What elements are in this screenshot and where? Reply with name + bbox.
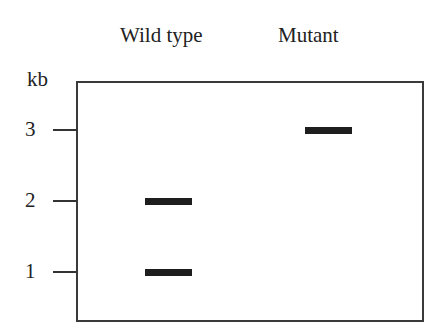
tick-mark-1kb: [53, 271, 77, 273]
tick-label-3kb: 3: [25, 117, 41, 141]
tick-mark-3kb: [53, 129, 77, 131]
tick-label-1kb: 1: [25, 259, 41, 283]
gel-frame: [76, 81, 424, 322]
tick-mark-2kb: [53, 200, 77, 202]
band-mutant-3kb: [305, 127, 352, 134]
band-wild-type-2kb: [145, 198, 192, 205]
lane-label-mutant: Mutant: [278, 22, 339, 48]
band-wild-type-1kb: [145, 269, 192, 276]
lane-label-wild-type: Wild type: [120, 22, 203, 48]
axis-unit-label: kb: [27, 66, 48, 92]
tick-label-2kb: 2: [25, 188, 41, 212]
